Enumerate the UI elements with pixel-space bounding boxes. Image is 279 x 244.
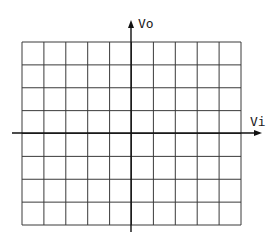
axes: [12, 20, 262, 232]
y-axis-label: Vo: [138, 17, 154, 30]
vo-vs-vi-grid-diagram: Vo Vi: [0, 0, 279, 244]
y-axis-arrow-icon: [128, 20, 134, 28]
x-axis-arrow-icon: [254, 130, 262, 136]
x-axis-label: Vi: [250, 115, 266, 128]
grid-graph: [0, 0, 279, 244]
